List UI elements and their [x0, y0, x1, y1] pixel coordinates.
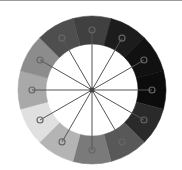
color-wheel [0, 0, 182, 170]
center-hub-icon [90, 88, 95, 93]
